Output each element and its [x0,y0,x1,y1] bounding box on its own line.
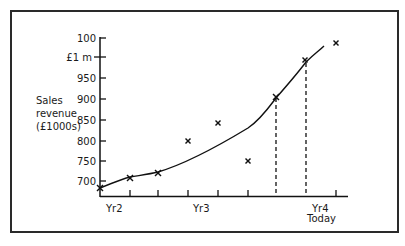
svg-text:revenue: revenue [36,108,77,119]
x-tick-labels: Yr2 Yr3 Yr4 Today [105,203,336,224]
y-tick-label: 950 [77,73,96,84]
y-tick-label: 100 [77,33,96,44]
y-tick-label: 750 [77,156,96,167]
data-point-marker [334,41,339,46]
y-tick-label: 700 [77,176,96,187]
x-ticks [130,190,336,196]
data-point-marker [216,121,221,126]
svg-text:Sales: Sales [36,95,63,106]
trend-curve [100,46,324,188]
sales-revenue-chart: 100 £1 m 950 900 850 800 750 700 Sales r… [0,0,405,246]
svg-text:(£1000s): (£1000s) [36,121,81,132]
x-label-yr3: Yr3 [192,203,210,214]
y-axis-title: Sales revenue (£1000s) [36,95,81,132]
y-tick-label: 900 [77,94,96,105]
data-point-marker [246,159,251,164]
y-tick-label: 800 [77,136,96,147]
data-point-marker [303,58,308,63]
y-tick-label-1m: £1 m [66,52,92,63]
data-points [97,41,339,192]
x-label-yr2: Yr2 [105,203,123,214]
data-point-marker [186,139,191,144]
x-label-today: Today [306,213,336,224]
